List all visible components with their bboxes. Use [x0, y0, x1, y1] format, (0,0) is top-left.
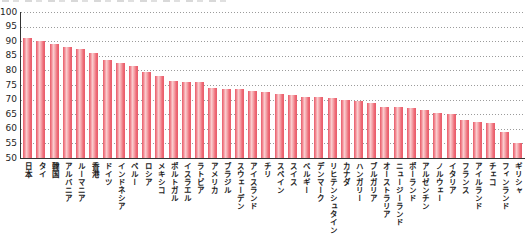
x-axis-label: タイ: [37, 162, 46, 178]
x-axis-label: イスラエル: [182, 162, 191, 202]
x-axis-label-cell: イスラエル: [180, 162, 193, 238]
x-axis-label-cell: アメリカ: [206, 162, 219, 238]
bar-slot: [352, 12, 365, 158]
x-axis-label-cell: ギリシャ: [511, 162, 524, 238]
x-axis-label: アルゼンチン: [420, 162, 429, 210]
bar: [473, 122, 482, 159]
x-axis-label-cell: ベルギー: [299, 162, 312, 238]
x-axis-label-cell: フィンランド: [497, 162, 510, 238]
x-axis-label: 日本: [23, 162, 32, 178]
bar-slot: [34, 12, 47, 158]
x-axis-label-cell: ノルウェー: [431, 162, 444, 238]
x-axis-label-cell: アイルランド: [471, 162, 484, 238]
bar: [89, 53, 98, 158]
bar: [420, 110, 429, 158]
x-axis-label: ルーマニア: [76, 162, 85, 202]
x-axis-label: アルバニア: [63, 162, 72, 202]
bar: [394, 107, 403, 158]
bar-slot: [180, 12, 193, 158]
x-axis-label-cell: アイスランド: [246, 162, 259, 238]
x-axis-label-cell: ニュージーランド: [392, 162, 405, 238]
x-axis-label: ドイツ: [103, 162, 112, 186]
x-axis-label-cell: ブルガリア: [365, 162, 378, 238]
bar: [50, 44, 59, 158]
bar: [433, 113, 442, 158]
bar: [103, 60, 112, 158]
bar-slot: [325, 12, 338, 158]
y-axis-tick-label: 80: [0, 65, 17, 76]
x-axis-label-cell: ラトビア: [193, 162, 206, 238]
bar-slot: [299, 12, 312, 158]
bar-slot: [114, 12, 127, 158]
bar: [235, 89, 244, 158]
y-axis-tick-label: 95: [0, 21, 17, 32]
bar: [142, 72, 151, 158]
bar-slot: [127, 12, 140, 158]
x-axis-label-cell: スペイン: [272, 162, 285, 238]
x-axis-label: ニュージーランド: [394, 162, 403, 226]
y-axis-tick-label: 65: [0, 109, 17, 120]
x-axis-label: アイスランド: [248, 162, 257, 210]
bar: [380, 107, 389, 158]
x-axis-label: スウェーデン: [235, 162, 244, 210]
x-axis-label: アイルランド: [473, 162, 482, 210]
bar: [275, 94, 284, 158]
x-axis-label: ハンガリー: [354, 162, 363, 202]
x-axis-label-cell: スウェーデン: [233, 162, 246, 238]
x-axis-label-cell: デンマーク: [312, 162, 325, 238]
x-axis-label: リヒテンシュタイン: [328, 162, 337, 234]
x-axis-label-cell: チェコ: [484, 162, 497, 238]
x-axis-label: メキシコ: [156, 162, 165, 194]
x-axis-label: ロシア: [142, 162, 151, 186]
bar-slot: [21, 12, 34, 158]
bar: [288, 95, 297, 158]
x-axis-label-cell: タイ: [34, 162, 47, 238]
bar-slot: [246, 12, 259, 158]
x-axis-label-cell: インドネシア: [114, 162, 127, 238]
y-axis-tick-label: 100: [0, 7, 17, 18]
y-axis-tick-label: 70: [0, 94, 17, 105]
y-axis-tick-label: 55: [0, 138, 17, 149]
bar-slot: [378, 12, 391, 158]
bar-slot: [458, 12, 471, 158]
bar: [169, 81, 178, 158]
x-axis-label: ブラジル: [222, 162, 231, 194]
bar: [500, 132, 509, 158]
x-axis-label: フィンランド: [500, 162, 509, 210]
x-axis-label: デンマーク: [314, 162, 323, 202]
bar: [129, 66, 138, 158]
y-axis-tick-label: 85: [0, 50, 17, 61]
bar-slot: [431, 12, 444, 158]
bar-slot: [220, 12, 233, 158]
x-axis-label: オーストラリア: [381, 162, 390, 218]
x-axis-label: 韓国: [50, 162, 59, 178]
bar: [447, 114, 456, 158]
x-axis-label-cell: メキシコ: [153, 162, 166, 238]
bar-slot: [153, 12, 166, 158]
bar: [314, 97, 323, 158]
bar-slot: [445, 12, 458, 158]
x-axis-label-cell: チリ: [259, 162, 272, 238]
bar: [460, 120, 469, 158]
bar-slot: [74, 12, 87, 158]
x-axis-label-cell: オーストラリア: [378, 162, 391, 238]
bar-slot: [405, 12, 418, 158]
bar-slot: [339, 12, 352, 158]
x-axis-label: ペルー: [129, 162, 138, 186]
x-axis-label: チェコ: [487, 162, 496, 186]
x-axis-label: インドネシア: [116, 162, 125, 210]
bar: [208, 88, 217, 158]
bar: [513, 143, 522, 158]
x-axis-label: アメリカ: [209, 162, 218, 194]
bar: [261, 92, 270, 158]
bar: [328, 98, 337, 158]
x-axis-line: [20, 158, 525, 159]
y-axis-tick-label: 60: [0, 123, 17, 134]
x-axis-label: ポルトガル: [169, 162, 178, 202]
bar-slot: [365, 12, 378, 158]
x-axis-label-cell: スイス: [286, 162, 299, 238]
x-axis-label: チリ: [262, 162, 271, 178]
bar-slot: [167, 12, 180, 158]
bar-slot: [286, 12, 299, 158]
bar: [36, 41, 45, 158]
